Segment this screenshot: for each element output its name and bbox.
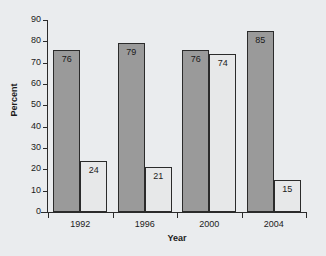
x-tick-label: 2004 [244,219,304,229]
bar-value-label: 21 [146,171,171,181]
y-axis-title: Percent [9,70,19,130]
y-tick-label: 50 [19,99,41,109]
x-axis-title: Year [48,233,306,243]
bar-value-label: 85 [248,35,273,45]
bar-value-label: 76 [54,54,79,64]
bar-value-label: 74 [210,58,235,68]
y-tick-label: 30 [19,142,41,152]
bar: 74 [209,54,236,212]
bar-value-label: 76 [183,54,208,64]
bar: 15 [274,180,301,212]
x-tick-mark [177,213,178,218]
x-tick-label: 2000 [179,219,239,229]
y-tick-label: 60 [19,78,41,88]
bar-value-label: 79 [119,47,144,57]
bar: 24 [80,161,107,212]
x-tick-mark [242,213,243,218]
x-tick-mark [113,213,114,218]
y-tick-label: 0 [19,206,41,216]
bar-chart: Percent 0102030405060708090 762479217674… [0,0,326,256]
bar-value-label: 24 [81,165,106,175]
bar: 76 [182,50,209,212]
bar: 85 [247,31,274,212]
plot-area: 7624792176748515 [48,20,306,212]
x-axis-line [41,212,307,213]
y-tick-label: 20 [19,163,41,173]
y-tick-label: 90 [19,14,41,24]
bar: 21 [145,167,172,212]
bar: 76 [53,50,80,212]
bar-value-label: 15 [275,184,300,194]
x-tick-label: 1996 [115,219,175,229]
x-tick-mark [48,213,49,218]
bar: 79 [118,43,145,212]
y-tick-label: 10 [19,185,41,195]
x-tick-label: 1992 [50,219,110,229]
y-tick-label: 70 [19,57,41,67]
y-tick-label: 40 [19,121,41,131]
y-tick-label: 80 [19,35,41,45]
x-tick-mark [306,213,307,218]
